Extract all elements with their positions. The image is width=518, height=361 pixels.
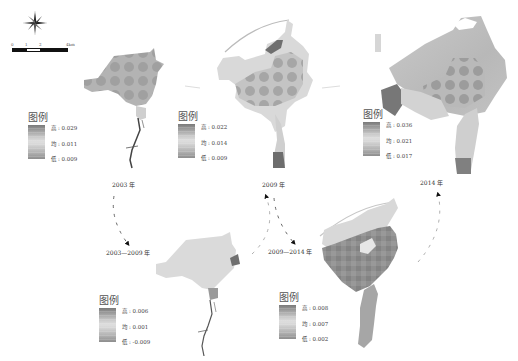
arrow-2009-to-change bbox=[274, 198, 294, 243]
flow-arrows bbox=[0, 0, 518, 361]
arrow-change-to-2009 bbox=[252, 196, 270, 254]
arrow-change-to-2014 bbox=[418, 194, 440, 262]
arrow-2003-to-change bbox=[113, 196, 128, 244]
